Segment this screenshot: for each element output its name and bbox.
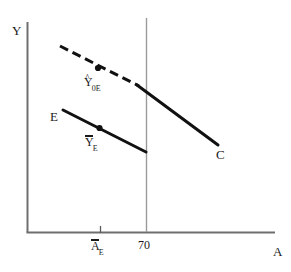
x-tick-label-70: 70: [138, 239, 150, 251]
upper-curve-solid-segment: [137, 85, 218, 145]
overbar-accent-icon: [85, 135, 93, 137]
hat-accent-icon: ^: [84, 73, 91, 83]
lower-curve-point-marker: [96, 125, 102, 131]
x-tick-label-a-bar-e: AE: [91, 240, 105, 255]
y-axis-title: Y: [12, 24, 21, 37]
upper-curve-end-label: C: [216, 148, 225, 161]
lower-curve-solid-line: [63, 110, 146, 152]
x-axis-title: A: [273, 245, 282, 258]
a-bar-subscript: E: [99, 248, 104, 257]
economics-line-chart: Y A E C ^Y0E YE AE 70: [0, 0, 291, 272]
y-bar-subscript: E: [93, 144, 98, 153]
chart-plot-area: [0, 0, 291, 272]
lower-curve-point-label: YE: [85, 136, 99, 151]
upper-curve-point-marker: [95, 65, 101, 71]
y-hat-subscript: 0E: [92, 84, 101, 93]
lower-curve-start-label: E: [50, 110, 58, 123]
overbar-accent-icon: [91, 239, 99, 241]
upper-curve-point-label: ^Y0E: [84, 76, 102, 91]
